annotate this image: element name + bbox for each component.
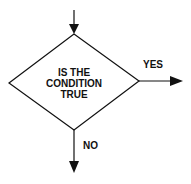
decision-text: IS THE CONDITION TRUE [34, 67, 114, 100]
decision-line-2: CONDITION [34, 78, 114, 89]
incoming-arrowhead-icon [69, 24, 79, 34]
decision-line-1: IS THE [34, 67, 114, 78]
no-arrowhead-icon [69, 161, 79, 173]
yes-arrowhead-icon [170, 76, 183, 86]
decision-line-3: TRUE [34, 89, 114, 100]
no-label: NO [83, 140, 98, 151]
yes-label: YES [143, 59, 163, 70]
